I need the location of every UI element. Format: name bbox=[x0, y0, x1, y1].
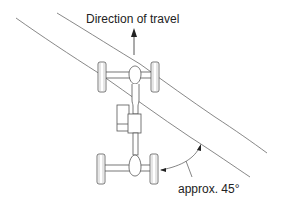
front-axle bbox=[98, 62, 159, 92]
obstacle-edges bbox=[16, 13, 267, 177]
arc-arrowhead-left-icon bbox=[160, 168, 166, 172]
front-right-wheel bbox=[151, 62, 159, 92]
rear-right-wheel bbox=[150, 154, 158, 184]
obstacle-upper-edge bbox=[57, 13, 267, 153]
arrowhead-icon bbox=[131, 28, 137, 37]
front-left-wheel bbox=[98, 62, 106, 92]
transfer-case-box bbox=[128, 114, 141, 133]
angle-indicator bbox=[160, 144, 201, 177]
vehicle-crossing-diagram bbox=[0, 0, 285, 202]
angle-leader-line bbox=[186, 161, 192, 177]
rear-driveshaft bbox=[133, 133, 138, 155]
rear-axle bbox=[97, 154, 158, 184]
transmission-box bbox=[117, 105, 129, 131]
rear-left-wheel bbox=[97, 154, 105, 184]
front-driveshaft bbox=[132, 84, 139, 114]
front-differential bbox=[129, 66, 141, 84]
arc-arrowhead-top-icon bbox=[197, 144, 201, 151]
angle-arc bbox=[161, 146, 200, 170]
direction-arrow bbox=[131, 28, 137, 55]
direction-of-travel-label: Direction of travel bbox=[86, 13, 179, 25]
angle-label: approx. 45° bbox=[178, 183, 240, 195]
rear-differential bbox=[129, 155, 141, 176]
